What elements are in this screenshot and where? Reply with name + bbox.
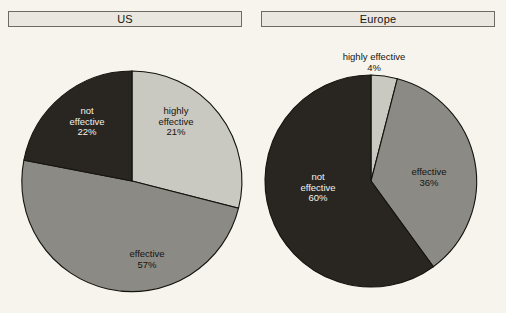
pie-chart-europe: highly effective 4% effective 36% not ef…	[253, 0, 506, 313]
panel-us: US highly effective 21% effective 57% no…	[0, 0, 253, 313]
panel-europe: Europe highly effective 4% effective 36%…	[253, 0, 506, 313]
pie-chart-us: highly effective 21% effective 57% not e…	[0, 0, 253, 313]
pie-svg-europe	[253, 0, 506, 313]
pie-svg-us	[0, 0, 253, 313]
